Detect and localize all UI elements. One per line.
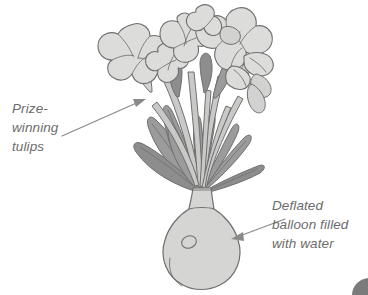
callout-line: Deflated [272,196,348,215]
flowers-group [98,5,273,113]
callout-line: with water [272,234,348,253]
page-corner-mark [352,278,368,295]
callout-line: winning [12,118,58,137]
arrow-to-tulips [62,99,146,136]
illustration-page: .o { fill: none; stroke: #6f6f6f; stroke… [0,0,368,295]
callout-deflated-balloon: Deflated balloon filled with water [272,196,348,253]
balloon-vase [163,188,240,290]
callout-line: tulips [12,137,58,156]
callout-line: balloon filled [272,215,348,234]
callout-prize-winning-tulips: Prize- winning tulips [12,99,58,156]
callout-line: Prize- [12,99,58,118]
